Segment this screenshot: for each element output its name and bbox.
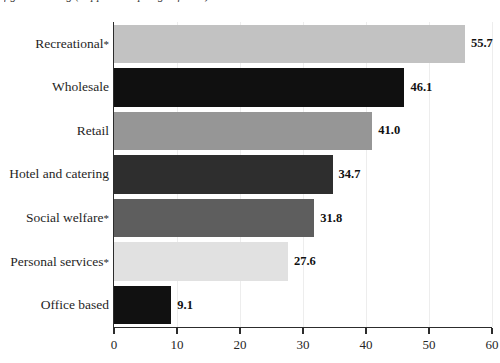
- x-tick-mark: [365, 328, 366, 334]
- bar-row: Personal services*27.6: [0, 242, 500, 281]
- x-tick-mark: [302, 328, 303, 334]
- bar-value-label: 55.7: [471, 25, 493, 64]
- x-tick-mark: [113, 328, 114, 334]
- bar: [114, 112, 372, 151]
- bar: [114, 199, 314, 238]
- x-tick-label: 0: [111, 337, 118, 353]
- bar: [114, 242, 288, 281]
- bar-row: Wholesale46.1: [0, 68, 500, 107]
- x-tick-label: 60: [486, 337, 499, 353]
- bar: [114, 155, 333, 194]
- bar-chart-figure: figure heading (clipped at top edge of s…: [0, 0, 500, 363]
- bar-row: Recreational*55.7: [0, 25, 500, 64]
- bar: [114, 68, 404, 107]
- x-tick-label: 40: [360, 337, 373, 353]
- bar-row: Retail41.0: [0, 112, 500, 151]
- bar-value-label: 27.6: [294, 242, 316, 281]
- x-tick-mark: [239, 328, 240, 334]
- bar: [114, 286, 171, 325]
- bar-category-label: Wholesale: [52, 68, 109, 107]
- bar-category-label: Personal services*: [10, 242, 109, 281]
- bar-value-label: 41.0: [378, 112, 400, 151]
- bar-row: Hotel and catering34.7: [0, 155, 500, 194]
- bar-value-label: 34.7: [339, 155, 361, 194]
- bar-row: Social welfare*31.8: [0, 199, 500, 238]
- bar-value-label: 31.8: [320, 199, 342, 238]
- bar: [114, 25, 465, 64]
- bar-category-label: Office based: [41, 286, 109, 325]
- x-tick-label: 50: [423, 337, 436, 353]
- bar-value-label: 9.1: [177, 286, 193, 325]
- x-tick-label: 10: [171, 337, 184, 353]
- bar-category-label: Retail: [77, 112, 109, 151]
- x-tick-mark: [428, 328, 429, 334]
- bar-row: Office based9.1: [0, 286, 500, 325]
- bar-category-label: Hotel and catering: [9, 155, 109, 194]
- x-tick-mark: [491, 328, 492, 334]
- bar-category-label: Recreational*: [35, 25, 109, 64]
- x-tick-label: 20: [234, 337, 247, 353]
- x-tick-mark: [176, 328, 177, 334]
- bar-value-label: 46.1: [410, 68, 432, 107]
- chart-caption: figure heading (clipped at top edge of s…: [4, 0, 496, 2]
- x-tick-label: 30: [297, 337, 310, 353]
- bar-category-label: Social welfare*: [26, 199, 109, 238]
